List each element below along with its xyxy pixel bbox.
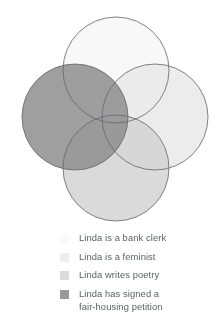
venn-diagram-svg: [0, 0, 214, 228]
legend-label-poetry: Linda writes poetry: [79, 268, 214, 282]
legend-item-feminist: Linda is a feminist: [0, 250, 214, 265]
legend-swatch-bank-clerk: [60, 234, 69, 243]
legend-swatch-fair-housing: [60, 290, 69, 299]
venn-diagram-page: Linda is a bank clerk Linda is a feminis…: [0, 0, 214, 314]
legend-label-feminist: Linda is a feminist: [79, 250, 214, 264]
venn-diagram-figure: [0, 0, 214, 228]
legend: Linda is a bank clerk Linda is a feminis…: [0, 231, 214, 314]
legend-label-bank-clerk: Linda is a bank clerk: [79, 231, 214, 245]
legend-item-poetry: Linda writes poetry: [0, 268, 214, 283]
legend-swatch-poetry: [60, 271, 69, 280]
legend-label-fair-housing: Linda has signed a fair-housing petition: [79, 287, 214, 314]
legend-item-fair-housing: Linda has signed a fair-housing petition: [0, 287, 214, 314]
legend-item-bank-clerk: Linda is a bank clerk: [0, 231, 214, 246]
venn-circle-fair-housing: [22, 64, 128, 170]
legend-swatch-feminist: [60, 253, 69, 262]
